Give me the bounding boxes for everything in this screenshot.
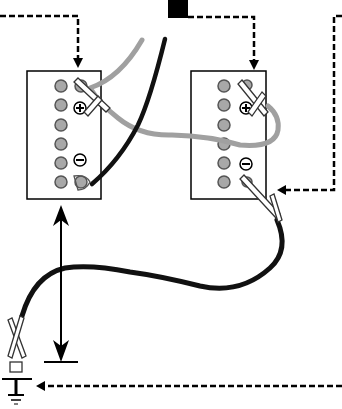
- ground-clamp-icon: [8, 316, 26, 372]
- arrowhead-icon: [277, 185, 286, 195]
- ground-icon: [2, 379, 32, 404]
- arrowhead-icon: [249, 60, 259, 70]
- arrowhead-icon: [36, 381, 45, 391]
- dashed-arrow-right-positive: [188, 17, 254, 62]
- arrowhead-icon: [73, 58, 83, 68]
- negative-symbol-icon: [240, 158, 252, 170]
- negative-symbol-icon: [74, 154, 86, 166]
- dashed-arrow-right-negative: [283, 16, 342, 190]
- dashed-arrow-left-positive: [0, 16, 78, 60]
- jump-start-diagram: [0, 0, 342, 409]
- source-block: [168, 0, 188, 18]
- distance-double-arrow: [44, 205, 78, 362]
